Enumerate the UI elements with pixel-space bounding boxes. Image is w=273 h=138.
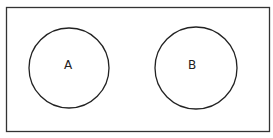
set-a-label: A <box>64 58 73 72</box>
venn-diagram: A B <box>0 0 273 138</box>
universe-rectangle <box>7 8 270 132</box>
set-b-label: B <box>188 58 196 72</box>
